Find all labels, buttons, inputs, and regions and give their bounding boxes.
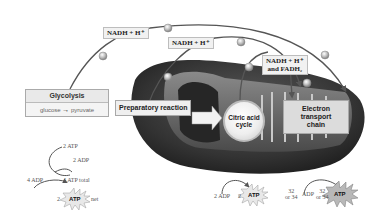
glucose-label: glucose	[40, 107, 61, 113]
glycolysis-4adp: 4 ADP	[27, 177, 43, 183]
citric-atp-label: ATP	[248, 192, 260, 198]
electron-icon	[245, 63, 253, 71]
pyruvate-label: pyruvate	[71, 107, 94, 113]
nadh-label-preparatory: NADH + H⁺	[168, 37, 214, 49]
citric-acid-line2: cycle	[228, 121, 259, 128]
etc-line2: chain	[286, 121, 346, 129]
glycolysis-equation: glucose → pyruvate	[26, 103, 108, 116]
glycolysis-atp-label: ATP	[69, 196, 81, 202]
electron-icon	[321, 51, 329, 59]
electron-icon	[164, 73, 172, 81]
citric-acid-cycle: Citric acid cycle	[223, 100, 265, 142]
etc-atp-count: 32 or 34	[285, 188, 298, 200]
glycolysis-title: Glycolysis	[26, 90, 108, 103]
etc-atp-label: ATP	[334, 191, 346, 197]
citric-atp-count: 2	[238, 193, 241, 199]
electron-icon	[303, 79, 311, 87]
etc-adp: ADP	[302, 191, 314, 197]
atp-consumption-arrow	[49, 147, 70, 176]
reaction-arrow-icon: →	[62, 106, 69, 113]
glycolysis-net-label: net	[91, 196, 98, 202]
nadh-fadh2-line1: NADH + H⁺	[266, 57, 304, 65]
preparatory-reaction-label: Preparatory reaction	[115, 100, 191, 116]
etc-count2-line2: or 34	[316, 194, 329, 200]
etc-count-line2: or 34	[285, 194, 298, 200]
citric-acid-line1: Citric acid	[228, 114, 259, 121]
electron-transport-chain-label: Electron transport chain	[283, 100, 349, 134]
glycolysis-2adp: 2 ADP	[73, 157, 89, 163]
adp-release-arrow	[55, 169, 72, 172]
citric-2adp: 2 ADP	[214, 193, 230, 199]
electron-icon	[237, 38, 245, 46]
glycolysis-box: Glycolysis glucose → pyruvate	[25, 89, 109, 117]
glycolysis-4atp-total: 4 ATP total	[63, 177, 90, 183]
nadh-fadh2-line2: and FADH₂	[266, 65, 304, 73]
electron-icon	[99, 52, 107, 60]
nadh-label-glycolysis: NADH + H⁺	[103, 27, 149, 39]
glycolysis-2atp: 2 ATP	[63, 143, 78, 149]
nadh-fadh2-label: NADH + H⁺ and FADH₂	[262, 55, 308, 75]
etc-line1: Electron transport	[286, 105, 346, 121]
glycolysis-net-count: 2	[57, 196, 60, 202]
electron-icon	[164, 24, 172, 32]
respiration-diagram: NADH + H⁺ NADH + H⁺ NADH + H⁺ and FADH₂ …	[0, 0, 385, 218]
etc-atp-count-2: 32 or 34	[316, 188, 329, 200]
